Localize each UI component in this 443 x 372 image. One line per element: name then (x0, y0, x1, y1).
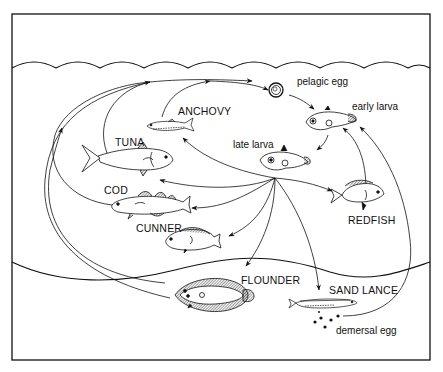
arrow-pelagic-to-pelagicegg (210, 81, 268, 90)
anchovy-icon (147, 118, 194, 131)
fish-life-cycle-diagram (0, 0, 443, 372)
arrow-pelagic-egg-to-early-larva (289, 95, 314, 109)
late-larva-label: late larva (233, 140, 274, 150)
pelagic-egg-label: pelagic egg (297, 77, 348, 87)
cunner-label: CUNNER (136, 223, 182, 234)
flounder-label: FLOUNDER (241, 275, 300, 286)
arrow-early-to-late-larva (317, 135, 328, 150)
arrow-top-to-pelagic (150, 80, 252, 82)
tuna-label: TUNA (115, 137, 144, 148)
anchovy-label: ANCHOVY (178, 106, 231, 117)
cod-label: COD (104, 185, 128, 196)
demersal-egg-label: demersal egg (336, 326, 397, 336)
pelagic-egg-icon (269, 83, 283, 97)
redfish-label: REDFISH (348, 215, 396, 226)
arrow-late-to-tuna (160, 178, 275, 187)
sea-floor-line (12, 258, 430, 280)
early-larva-icon (306, 106, 356, 130)
sea-surface-wave (12, 62, 430, 68)
redfish-icon (331, 180, 384, 210)
sand-lance-icon (289, 299, 357, 308)
early-larva-label: early larva (352, 102, 398, 112)
sand-lance-label: SAND LANCE (329, 285, 398, 296)
arrow-late-to-redfish (275, 178, 332, 191)
